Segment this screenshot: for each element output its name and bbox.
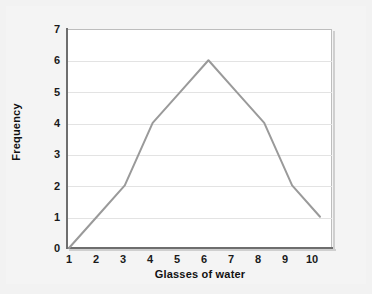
y-tick-label-5: 5 <box>38 87 60 98</box>
y-axis-title: Frequency <box>10 72 22 192</box>
x-tick-label-8: 8 <box>245 253 271 265</box>
x-axis-shadow <box>69 249 336 251</box>
y-tick-label-3: 3 <box>38 149 60 160</box>
plot-area <box>68 29 332 248</box>
y-axis-line <box>66 28 68 249</box>
x-tick-label-4: 4 <box>137 253 163 265</box>
gridline-y3 <box>68 155 332 156</box>
gridline-y5 <box>68 92 332 93</box>
y-tick-label-4: 4 <box>38 118 60 129</box>
x-tick-label-1: 1 <box>56 253 82 265</box>
y-tick-label-1: 1 <box>38 212 60 223</box>
x-tick-label-3: 3 <box>110 253 136 265</box>
x-axis-line <box>66 247 333 249</box>
x-tick-label-7: 7 <box>218 253 244 265</box>
x-tick-label-6: 6 <box>191 253 217 265</box>
gridline-y6 <box>68 61 332 62</box>
y-axis-tick-labels: 7 6 5 4 3 2 1 0 <box>38 0 60 294</box>
gridline-y4 <box>68 124 332 125</box>
y-tick-label-6: 6 <box>38 55 60 66</box>
x-tick-label-9: 9 <box>272 253 298 265</box>
x-tick-label-2: 2 <box>83 253 109 265</box>
y-tick-label-7: 7 <box>38 24 60 35</box>
chart-figure: 7 6 5 4 3 2 1 0 1 2 3 4 5 6 7 8 9 10 Gla… <box>0 0 372 294</box>
gridline-y2 <box>68 186 332 187</box>
plot-right-shadow <box>333 31 335 250</box>
x-tick-label-5: 5 <box>164 253 190 265</box>
gridline-y1 <box>68 218 332 219</box>
x-axis-title: Glasses of water <box>68 268 332 280</box>
y-tick-label-2: 2 <box>38 181 60 192</box>
x-tick-label-10: 10 <box>299 253 325 265</box>
